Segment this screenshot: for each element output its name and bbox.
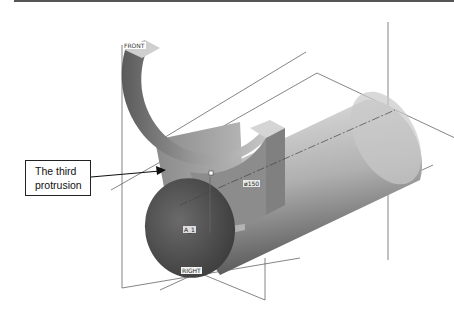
datum-label-right[interactable]: RIGHT bbox=[181, 267, 202, 274]
callout-line-2: protrusion bbox=[35, 178, 90, 192]
callout-arrow bbox=[91, 166, 166, 177]
dimension-label[interactable]: ø150 bbox=[243, 180, 260, 187]
datum-label-front[interactable]: FRONT bbox=[123, 42, 146, 49]
axis-label[interactable]: A_1 bbox=[183, 226, 196, 233]
callout-box: The third protrusion bbox=[25, 160, 91, 196]
callout-line-1: The third bbox=[35, 164, 90, 178]
datum-point-marker bbox=[209, 171, 213, 175]
